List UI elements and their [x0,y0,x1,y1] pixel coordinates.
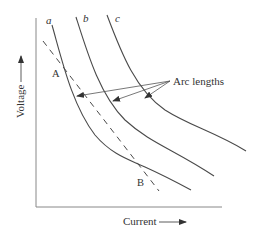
curve-label-a: a [46,14,52,26]
curve-label-b: b [83,12,89,24]
point-label-b: B [137,177,144,188]
arc-length-arrows [77,81,170,101]
volt-ampere-diagram: a b c A B Arc lengths Current Voltage [0,0,259,235]
axes [36,18,222,207]
point-label-a: A [52,68,60,79]
curve-label-c: c [115,12,120,24]
y-axis-label: Voltage [14,84,26,118]
curve-b [76,17,214,176]
load-line [43,41,159,191]
arc-lengths-label: Arc lengths [173,75,224,87]
x-axis-label: Current [123,215,157,227]
